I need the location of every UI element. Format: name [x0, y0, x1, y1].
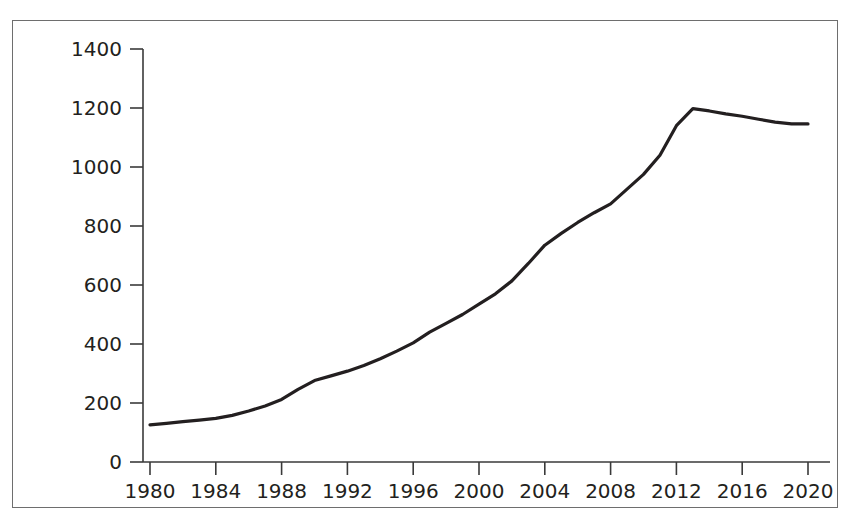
x-tick-label: 1992	[322, 479, 373, 503]
data-series-line	[150, 109, 808, 425]
plot-area	[150, 109, 808, 425]
x-tick-label: 2000	[454, 479, 505, 503]
line-chart: 0200400600800100012001400 19801984198819…	[0, 0, 866, 522]
y-tick-label: 1400	[71, 37, 122, 61]
y-tick-label: 1000	[71, 155, 122, 179]
y-tick-label: 800	[84, 214, 122, 238]
x-axis: 1980198419881992199620002004200820122016…	[125, 462, 834, 503]
x-tick-label: 2004	[519, 479, 570, 503]
y-tick-label: 600	[84, 273, 122, 297]
x-tick-label: 1988	[256, 479, 307, 503]
y-tick-label: 400	[84, 332, 122, 356]
x-tick-label: 2012	[651, 479, 702, 503]
x-tick-label: 2020	[783, 479, 834, 503]
y-tick-label: 0	[109, 450, 122, 474]
x-tick-label: 2016	[717, 479, 768, 503]
chart-page: 0200400600800100012001400 19801984198819…	[0, 0, 866, 522]
y-axis: 0200400600800100012001400	[71, 37, 143, 474]
x-tick-label: 1984	[190, 479, 241, 503]
x-tick-label: 2008	[585, 479, 636, 503]
x-tick-label: 1996	[388, 479, 439, 503]
y-tick-label: 200	[84, 391, 122, 415]
y-tick-label: 1200	[71, 96, 122, 120]
x-tick-label: 1980	[125, 479, 176, 503]
